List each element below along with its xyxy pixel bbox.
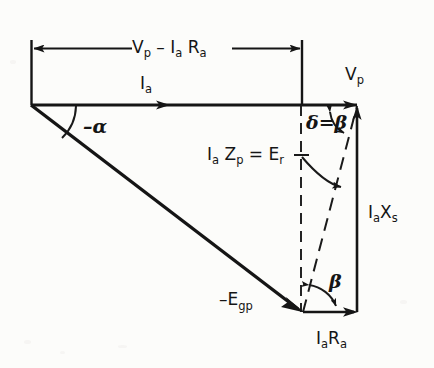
label-iara-sub-a2: a [340, 337, 347, 351]
label-delta-equals-beta: δ=β [305, 111, 348, 133]
label-egp-e: E [228, 289, 239, 309]
vector-ia [31, 101, 358, 110]
label-er-equals: = [249, 144, 263, 164]
label-er-sub-p: p [236, 153, 243, 167]
label-minus-alpha: –α [83, 115, 108, 137]
label-ia-sub: a [175, 46, 182, 60]
label-ra-r: R [188, 37, 200, 57]
label-er-e: E [269, 144, 280, 164]
label-er-sub-r: r [279, 153, 284, 167]
label-iaxs-sub-a: a [373, 211, 380, 225]
svg-text:Vp – Ia Ra: Vp – Ia Ra [132, 37, 207, 60]
phasor-diagram: Vp – Ia Ra Ia –α [0, 0, 434, 368]
label-egp-minus: – [219, 289, 228, 309]
label-vp-letter: V [345, 64, 357, 84]
label-vp: Vp [345, 64, 364, 87]
label-ia-subscript: a [145, 82, 152, 96]
label-minus-egp: –Egp [219, 289, 253, 313]
label-ra-sub: a [200, 46, 207, 60]
figure-canvas: Vp – Ia Ra Ia –α [0, 0, 434, 368]
label-iaxs: IaXs [368, 202, 398, 225]
label-er: Ia Zp = Er [207, 144, 284, 167]
label-vp-sub: p [144, 46, 151, 60]
label-minus-sign: – [156, 37, 165, 57]
vector-iara [303, 307, 358, 317]
label-iara: IaRa [316, 328, 347, 351]
label-iara-sub-a1: a [321, 337, 328, 351]
label-iara-r: R [328, 328, 340, 348]
leader-er-curve [302, 157, 341, 187]
label-vp-v: V [132, 37, 144, 57]
label-iaxs-sub-s: s [392, 211, 398, 225]
label-vp-subscript: p [357, 73, 364, 87]
label-ia: Ia [140, 73, 152, 96]
label-er-z: Z [224, 144, 236, 164]
label-iaxs-x: X [380, 202, 392, 222]
label-vp-minus-iara: Vp – Ia Ra [132, 37, 207, 60]
label-er-sub-a: a [212, 153, 219, 167]
label-egp-group: –Egp [219, 289, 253, 313]
label-beta: β [328, 270, 342, 292]
label-egp-sub: gp [238, 299, 253, 313]
vector-minus-egp-line [31, 105, 298, 309]
vector-minus-egp [31, 105, 305, 313]
vector-iaxs [352, 106, 361, 313]
